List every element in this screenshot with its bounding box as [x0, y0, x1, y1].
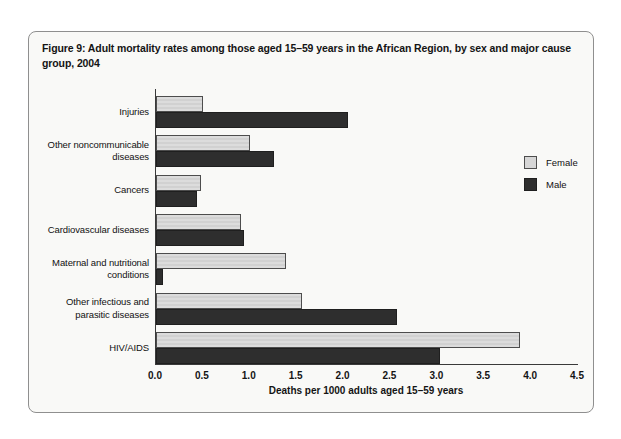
male-swatch [524, 178, 537, 191]
category-label: Cancers [31, 173, 149, 209]
bar-male [156, 112, 348, 128]
figure-panel: Figure 9: Adult mortality rates among th… [28, 31, 594, 413]
category-label: Cardiovascular diseases [31, 212, 149, 248]
x-axis-line [155, 364, 578, 365]
bar-female [156, 175, 201, 191]
x-tick-label: 0.5 [187, 370, 217, 381]
x-tick-label: 1.0 [234, 370, 264, 381]
x-axis-title: Deaths per 1000 adults aged 15–59 years [155, 385, 577, 396]
legend-item-male: Male [524, 178, 578, 191]
bar-female [156, 293, 302, 309]
female-swatch [524, 156, 537, 169]
bar-male [156, 151, 274, 167]
x-tick-label: 2.0 [328, 370, 358, 381]
category-label: Other noncommunicable diseases [31, 133, 149, 169]
bar-male [156, 191, 197, 207]
category-label: Injuries [31, 94, 149, 130]
x-tick-label: 2.5 [374, 370, 404, 381]
x-tick-label: 4.5 [562, 370, 592, 381]
bar-male [156, 348, 440, 364]
bar-female [156, 253, 286, 269]
bar-female [156, 96, 203, 112]
bar-male [156, 309, 397, 325]
bar-male [156, 269, 163, 285]
chart-legend: Female Male [524, 156, 578, 191]
x-tick-label: 3.5 [468, 370, 498, 381]
bar-female [156, 135, 250, 151]
legend-item-female: Female [524, 156, 578, 169]
category-label: HIV/AIDS [31, 330, 149, 366]
bar-female [156, 214, 241, 230]
y-axis-line [155, 89, 156, 364]
category-label: Maternal and nutritional conditions [31, 251, 149, 287]
x-tick-label: 1.5 [281, 370, 311, 381]
legend-label-female: Female [546, 157, 578, 168]
category-label: Other infectious and parasitic diseases [31, 291, 149, 327]
x-tick-label: 3.0 [421, 370, 451, 381]
x-tick-label: 0.0 [140, 370, 170, 381]
bar-male [156, 230, 244, 246]
x-tick-label: 4.0 [515, 370, 545, 381]
legend-label-male: Male [546, 179, 567, 190]
bar-chart: Female Male Deaths per 1000 adults aged … [29, 32, 593, 412]
bar-female [156, 332, 520, 348]
